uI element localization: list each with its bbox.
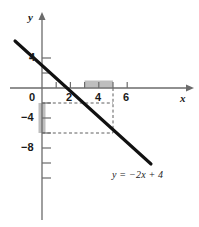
function-line [15,41,151,164]
equation-label: y = −2x + 4 [112,170,163,180]
y-tick-label-neg8: −8 [21,142,34,153]
y-tick-label-4: 4 [29,52,35,63]
dashed-construction-lines [42,88,113,133]
x-tick-label-4: 4 [95,92,101,103]
y-axis-label: y [28,12,33,23]
x-tick-label-0: 0 [29,92,35,103]
graph-figure: 0 2 4 6 4 −4 −8 y x y = −2x + 4 [0,0,199,227]
x-tick-label-6: 6 [123,92,129,103]
y-tick-label-neg4: −4 [21,112,34,123]
y-axis-ticks [42,58,51,178]
x-axis-label: x [180,93,186,104]
x-tick-label-2: 2 [66,92,72,103]
